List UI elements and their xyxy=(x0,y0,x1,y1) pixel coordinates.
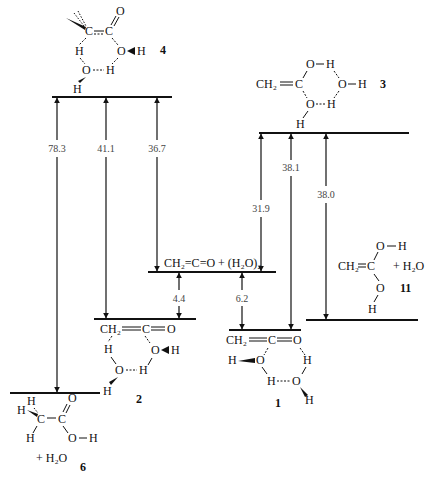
svg-text:H: H xyxy=(27,394,36,408)
svg-text:O: O xyxy=(68,391,77,405)
structure-2: CH₂ C O H O H O H H 2 xyxy=(100,322,180,406)
svg-text:O: O xyxy=(82,63,91,77)
svg-text:C: C xyxy=(58,412,66,426)
energy-levels xyxy=(10,97,418,393)
value-41-1: 41.1 xyxy=(97,143,115,154)
svg-text:H: H xyxy=(104,342,113,356)
label-1: 1 xyxy=(275,396,281,410)
wedge-bond-icon xyxy=(127,47,135,55)
structure-6: H H C C O H O H + H₂O 6 xyxy=(17,391,98,474)
svg-text:O: O xyxy=(68,431,77,445)
energy-diagram: 78.3 41.1 36.7 31.9 38.1 38.0 4.4 6.2 C … xyxy=(0,0,431,481)
svg-text:H: H xyxy=(139,363,148,377)
svg-text:O: O xyxy=(376,239,385,253)
arrow-labels: 78.3 41.1 36.7 31.9 38.1 38.0 4.4 6.2 xyxy=(48,143,335,304)
svg-text:O: O xyxy=(292,374,301,388)
plus-water-11: + H₂O xyxy=(393,259,425,273)
value-4-4: 4.4 xyxy=(173,293,186,304)
svg-text:O: O xyxy=(376,281,385,295)
value-6-2: 6.2 xyxy=(236,293,249,304)
svg-text:H: H xyxy=(327,97,336,111)
svg-text:H: H xyxy=(303,353,312,367)
svg-text:H: H xyxy=(137,44,146,58)
wedge-bond-icon xyxy=(161,346,169,354)
svg-text:CH₂: CH₂ xyxy=(338,259,359,273)
value-38-1: 38.1 xyxy=(282,162,300,173)
svg-text:H: H xyxy=(358,77,367,91)
label-6: 6 xyxy=(80,460,86,474)
svg-text:H: H xyxy=(171,343,180,357)
svg-text:H: H xyxy=(106,63,115,77)
svg-text:CH₂: CH₂ xyxy=(256,77,277,91)
svg-text:C: C xyxy=(268,333,276,347)
structure-3: CH₂ C O H O H 3 O H H xyxy=(256,57,386,131)
svg-text:C: C xyxy=(85,24,93,38)
svg-text:CH₂: CH₂ xyxy=(100,322,121,336)
svg-text:H: H xyxy=(103,384,112,398)
plus-water-6: + H₂O xyxy=(36,451,68,465)
svg-text:O: O xyxy=(167,322,176,336)
svg-text:H: H xyxy=(75,44,84,58)
svg-text:H: H xyxy=(368,302,377,316)
structure-1: CH₂ C O H O H H O H 1 xyxy=(226,333,314,410)
svg-text:O: O xyxy=(151,343,160,357)
svg-text:C: C xyxy=(295,77,303,91)
svg-text:H: H xyxy=(26,431,35,445)
svg-text:H: H xyxy=(73,82,82,96)
svg-text:CH₂: CH₂ xyxy=(226,333,247,347)
svg-text:H: H xyxy=(228,353,237,367)
svg-text:H: H xyxy=(398,239,407,253)
structure-4: C C O H O H 4 O H H xyxy=(66,4,166,96)
svg-text:H: H xyxy=(267,374,276,388)
label-4: 4 xyxy=(160,43,166,57)
value-31-9: 31.9 xyxy=(252,203,270,214)
structure-11: O H CH₂ C + H₂O O 11 H xyxy=(338,239,425,316)
svg-text:H: H xyxy=(326,57,335,71)
svg-text:C: C xyxy=(37,412,45,426)
svg-text:O: O xyxy=(115,363,124,377)
label-2: 2 xyxy=(136,392,142,406)
svg-text:H: H xyxy=(305,393,314,407)
svg-text:O: O xyxy=(116,4,125,18)
value-78-3: 78.3 xyxy=(48,143,66,154)
svg-text:H: H xyxy=(296,117,305,131)
svg-text:H: H xyxy=(89,431,98,445)
svg-text:O: O xyxy=(256,353,265,367)
svg-text:C: C xyxy=(105,24,113,38)
svg-text:O: O xyxy=(306,97,315,111)
label-11: 11 xyxy=(400,281,411,295)
svg-text:O: O xyxy=(338,77,347,91)
wedge-bond-icon xyxy=(238,358,255,363)
svg-text:H: H xyxy=(17,403,26,417)
label-3: 3 xyxy=(380,77,386,91)
value-38-0: 38.0 xyxy=(317,189,335,200)
svg-text:O: O xyxy=(293,333,302,347)
svg-text:C: C xyxy=(367,259,375,273)
svg-text:O: O xyxy=(306,57,315,71)
svg-text:O: O xyxy=(117,44,126,58)
ketene-water-dimer-label: CH₂=C=O + (H₂O)₂ xyxy=(164,256,262,270)
svg-text:C: C xyxy=(142,322,150,336)
value-36-7: 36.7 xyxy=(148,143,166,154)
